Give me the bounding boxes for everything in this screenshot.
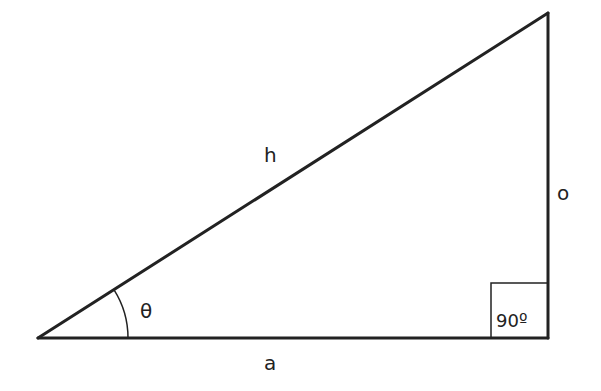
right-angle-label: 90º	[496, 310, 527, 331]
adjacent-label: a	[264, 351, 276, 375]
right-triangle-diagram: h o θ a 90º	[0, 0, 601, 391]
hypotenuse-label: h	[264, 143, 277, 167]
opposite-label: o	[557, 181, 569, 205]
angle-arc	[114, 290, 128, 338]
angle-label: θ	[140, 299, 152, 323]
